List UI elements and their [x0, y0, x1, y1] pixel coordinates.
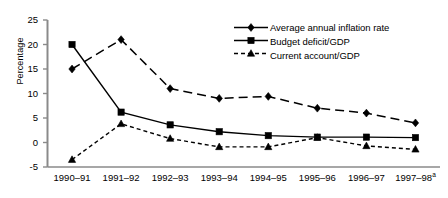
series-line	[72, 124, 415, 160]
series-point-marker	[216, 94, 222, 102]
series-point-marker	[167, 122, 173, 128]
series-point-marker	[265, 133, 271, 139]
legend-item-label: Budget deficit/GDP	[270, 36, 350, 47]
series-point-marker	[118, 109, 124, 115]
legend-marker-diamond-icon	[232, 22, 270, 34]
series-point-marker	[363, 134, 369, 140]
x-tick-label: 1990–91	[54, 172, 91, 183]
x-tick-label: 1996–97	[348, 172, 385, 183]
chart-container: Percentage 2520151050-5 1990–911991–9219…	[0, 0, 448, 198]
y-tick-label: 25	[16, 14, 38, 25]
y-tick-label: 5	[16, 112, 38, 123]
y-tick-label: -5	[16, 161, 38, 172]
series-point-marker	[167, 135, 174, 142]
legend-item-label: Average annual inflation rate	[270, 22, 389, 33]
series-point-marker	[265, 93, 271, 101]
x-tick-label: 1994–95	[250, 172, 287, 183]
y-tick-label: 15	[16, 63, 38, 74]
series-point-marker	[117, 120, 124, 127]
x-tick-label: 1992–93	[152, 172, 189, 183]
x-tick-label: 1993–94	[201, 172, 238, 183]
legend-item-label: Current account/GDP	[270, 50, 360, 61]
series-point-marker	[69, 65, 75, 73]
series-point-marker	[314, 104, 320, 112]
chart-legend: Average annual inflation rateBudget defi…	[232, 21, 389, 62]
x-tick-label: 1991–92	[103, 172, 140, 183]
legend-item: Average annual inflation rate	[232, 21, 389, 34]
series-point-marker	[412, 119, 418, 127]
series-point-marker	[167, 85, 173, 93]
y-tick-label: 0	[16, 137, 38, 148]
legend-item: Current account/GDP	[232, 49, 389, 62]
x-tick-label: 1995–96	[299, 172, 336, 183]
series-point-marker	[216, 129, 222, 135]
series-point-marker	[68, 156, 75, 163]
legend-marker-triangle-icon	[232, 50, 270, 62]
legend-item: Budget deficit/GDP	[232, 35, 389, 48]
y-tick-label: 10	[16, 88, 38, 99]
series-point-marker	[69, 41, 75, 47]
legend-marker-square-icon	[232, 36, 270, 48]
x-tick-label: 1997–98a	[395, 172, 436, 183]
y-tick-label: 20	[16, 39, 38, 50]
chart-series	[68, 120, 419, 162]
series-point-marker	[412, 134, 418, 140]
series-point-marker	[363, 109, 369, 117]
series-point-marker	[363, 142, 370, 149]
